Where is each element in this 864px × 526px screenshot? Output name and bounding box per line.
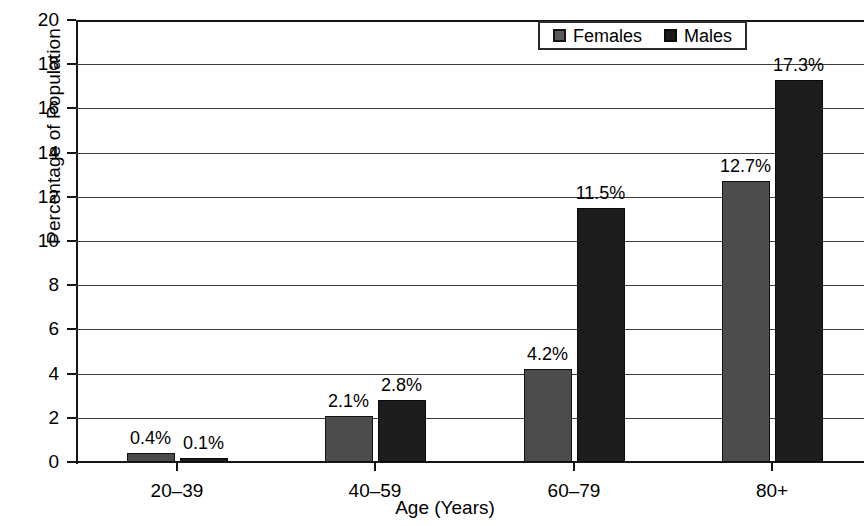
y-tick-2 (67, 417, 76, 419)
plot-area: 0.4%0.1%2.1%2.8%4.2%11.5%12.7%17.3% (76, 20, 864, 462)
bar-females-20–39 (127, 453, 175, 462)
bar-value-label: 0.1% (183, 434, 224, 452)
y-tick-18 (67, 63, 76, 65)
y-tick-8 (67, 284, 76, 286)
y-tick-10 (67, 240, 76, 242)
y-tick-label-0: 0 (19, 452, 59, 471)
y-tick-label-4: 4 (19, 364, 59, 383)
gridline-18 (76, 64, 864, 65)
y-tick-label-8: 8 (19, 275, 59, 294)
legend-label-males: Males (684, 27, 732, 45)
males-swatch-icon (664, 29, 677, 42)
y-tick-6 (67, 328, 76, 330)
gridline-14 (76, 153, 864, 154)
bar-females-40–59 (325, 416, 373, 462)
y-tick-label-18: 18 (19, 54, 59, 73)
bar-females-60–79 (524, 369, 572, 462)
bar-males-60–79 (577, 208, 625, 462)
y-tick-0 (67, 461, 76, 463)
x-tick-20–39 (176, 462, 178, 471)
bar-value-label: 2.1% (328, 392, 369, 410)
y-tick-label-14: 14 (19, 143, 59, 162)
bar-males-20–39 (180, 458, 228, 462)
bar-value-label: 2.8% (381, 376, 422, 394)
y-tick-label-2: 2 (19, 408, 59, 427)
y-tick-label-16: 16 (19, 98, 59, 117)
bar-value-label: 0.4% (130, 429, 171, 447)
gridline-16 (76, 108, 864, 109)
females-swatch-icon (553, 29, 566, 42)
y-tick-label-20: 20 (19, 10, 59, 29)
y-tick-14 (67, 152, 76, 154)
x-tick-80+ (771, 462, 773, 471)
bar-males-80+ (775, 80, 823, 462)
y-tick-label-12: 12 (19, 187, 59, 206)
bar-chart: Percentage of Population 201816141210864… (0, 0, 864, 526)
bar-value-label: 17.3% (773, 56, 824, 74)
legend-label-females: Females (573, 27, 642, 45)
x-axis-title: Age (Years) (0, 497, 864, 519)
bar-value-label: 4.2% (527, 345, 568, 363)
x-tick-60–79 (573, 462, 575, 471)
y-tick-label-10: 10 (19, 231, 59, 250)
bar-females-80+ (722, 181, 770, 462)
y-tick-20 (67, 19, 76, 21)
legend-entry-males: Males (664, 27, 732, 45)
y-tick-label-6: 6 (19, 319, 59, 338)
legend-entry-females: Females (553, 27, 642, 45)
bar-value-label: 12.7% (720, 157, 771, 175)
legend: Females Males (538, 21, 747, 50)
y-tick-16 (67, 107, 76, 109)
bar-males-40–59 (378, 400, 426, 462)
x-axis-title-text: Age (Years) (395, 497, 495, 519)
x-tick-40–59 (374, 462, 376, 471)
bar-value-label: 11.5% (576, 184, 626, 202)
y-tick-4 (67, 373, 76, 375)
y-tick-12 (67, 196, 76, 198)
